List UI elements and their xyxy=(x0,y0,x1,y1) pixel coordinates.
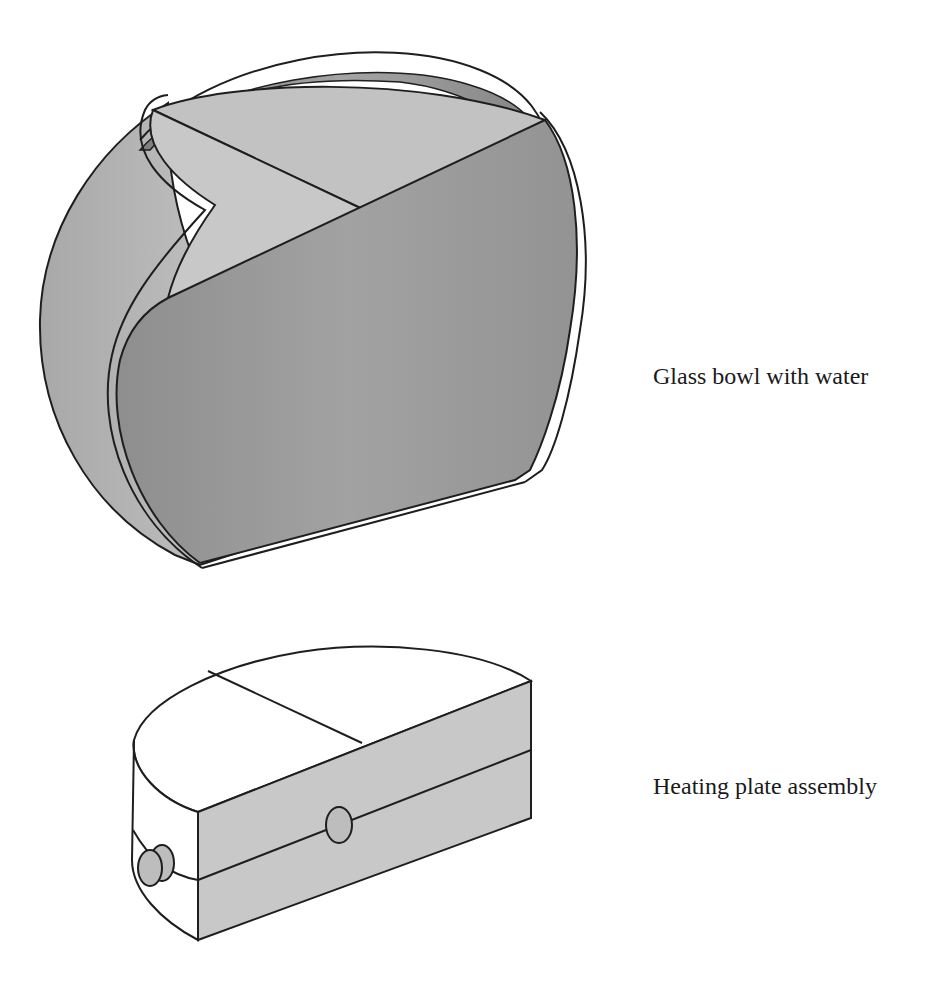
heating-plate-drawing xyxy=(132,647,531,940)
plate-knob-front xyxy=(138,850,162,886)
plate-indicator-light xyxy=(326,807,352,843)
figure-drawing xyxy=(0,0,927,1005)
figure: Glass bowl with water Heating plate asse… xyxy=(0,0,927,1005)
heating-plate-caption: Heating plate assembly xyxy=(653,773,877,800)
glass-bowl-caption: Glass bowl with water xyxy=(653,363,868,390)
glass-bowl-drawing xyxy=(40,52,586,568)
